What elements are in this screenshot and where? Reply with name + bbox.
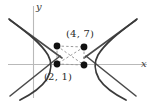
dashed-connectors-group <box>57 46 84 65</box>
point-dot-top-right <box>81 44 88 51</box>
figure-canvas <box>0 0 155 103</box>
y-axis-label: y <box>36 2 42 12</box>
connector-diagonal-b <box>57 47 84 64</box>
hyperbola-left-branch <box>9 19 51 100</box>
connector-top-edge <box>57 46 84 47</box>
hyperbola-figure: y x (4, 7) (2, 1) <box>0 0 155 103</box>
point-dot-top-left <box>54 43 61 50</box>
axes-group <box>8 6 147 98</box>
point-label-upper: (4, 7) <box>66 29 94 39</box>
hyperbola-right-branch <box>95 19 137 100</box>
point-dot-bottom-right <box>81 62 88 69</box>
x-axis-label: x <box>141 59 147 69</box>
point-label-lower: (2, 1) <box>44 72 72 82</box>
point-dot-bottom-left <box>54 61 61 68</box>
